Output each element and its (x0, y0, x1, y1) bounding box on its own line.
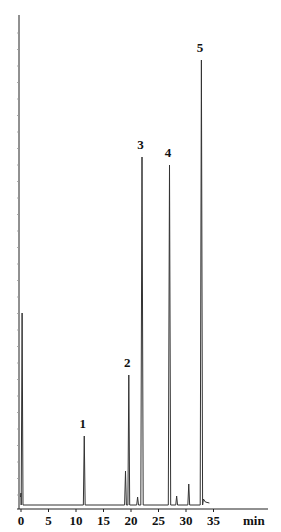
x-axis-tick-label: 0 (18, 513, 25, 528)
x-axis-tick-label: 5 (45, 513, 52, 528)
peak-label-1: 1 (80, 416, 87, 431)
x-axis-tick-label: 10 (70, 513, 83, 528)
peak-label-3: 3 (137, 137, 144, 152)
x-axis-tick-label: 20 (125, 513, 138, 528)
chromatogram-trace (20, 60, 209, 505)
x-axis: 05101520253035 (17, 509, 268, 528)
x-axis-tick-label: 25 (152, 513, 166, 528)
x-axis-tick-label: 35 (207, 513, 221, 528)
peak-label-5: 5 (197, 40, 204, 55)
peak-label-2: 2 (124, 355, 131, 370)
x-axis-unit-label: min (243, 513, 265, 528)
x-axis-tick-label: 30 (180, 513, 193, 528)
chromatogram-chart: 05101520253035 12345 min (0, 0, 281, 532)
peak-label-4: 4 (165, 145, 172, 160)
x-axis-tick-label: 15 (97, 513, 111, 528)
y-axis (17, 15, 19, 509)
